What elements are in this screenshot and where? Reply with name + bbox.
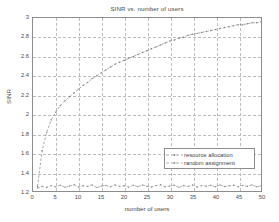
series-point [146, 50, 147, 51]
x-axis-label: number of users [32, 205, 262, 212]
series-point [174, 184, 175, 185]
series-point [164, 186, 165, 187]
series-point [55, 111, 56, 112]
series-point [37, 187, 38, 188]
y-tick-label: 1.4 [3, 170, 29, 176]
x-tick-label: 15 [89, 194, 113, 200]
series-point [142, 184, 143, 185]
series-point [105, 69, 106, 70]
series-point [224, 186, 225, 187]
series-point [105, 185, 106, 186]
series-point [178, 187, 179, 188]
series-point [151, 186, 152, 187]
y-tick-label: 1.6 [3, 150, 29, 156]
legend-marker-icon [165, 159, 184, 167]
series-point [37, 185, 38, 186]
series-point [151, 48, 152, 49]
series-point [219, 28, 220, 29]
series-point [192, 34, 193, 35]
series-point [73, 92, 74, 93]
x-tick-label: 35 [181, 194, 205, 200]
series-point [119, 61, 120, 62]
series-point [82, 85, 83, 86]
x-tick-label: 0 [20, 194, 44, 200]
y-tick-label: 2.6 [3, 53, 29, 59]
series-point [60, 105, 61, 106]
series-point [215, 186, 216, 187]
series-point [215, 29, 216, 30]
series-point [256, 186, 257, 187]
series-point [69, 96, 70, 97]
series-point [169, 185, 170, 186]
series-point [128, 186, 129, 187]
series-point [228, 185, 229, 186]
series-point [247, 186, 248, 187]
series-point [114, 63, 115, 64]
x-tick-label: 20 [112, 194, 136, 200]
series-point [242, 185, 243, 186]
series-point [128, 58, 129, 59]
series-line-1 [38, 185, 261, 188]
series-point [160, 184, 161, 185]
series-point [64, 100, 65, 101]
series-point [78, 186, 79, 187]
series-point [155, 46, 156, 47]
series-point [233, 25, 234, 26]
series-point [114, 184, 115, 185]
series-point [96, 187, 97, 188]
x-tick-label: 25 [135, 194, 159, 200]
series-point [142, 52, 143, 53]
series-point [64, 187, 65, 188]
series-point [260, 185, 261, 186]
series-point [256, 22, 257, 23]
series-point [160, 44, 161, 45]
series-point [60, 184, 61, 185]
y-tick-label: 3 [3, 14, 29, 20]
series-point [137, 54, 138, 55]
series-point [237, 186, 238, 187]
series-point [169, 40, 170, 41]
series-point [46, 187, 47, 188]
legend-item-resource-allocation[interactable]: resource allocation [165, 151, 254, 159]
series-point [92, 184, 93, 185]
series-point [101, 185, 102, 186]
x-tick-label: 40 [204, 194, 228, 200]
series-point [50, 119, 51, 120]
legend-item-random-assignment[interactable]: random assignment [165, 159, 254, 167]
series-point [87, 82, 88, 83]
series-point [260, 21, 261, 22]
y-tick-label: 1.8 [3, 131, 29, 137]
series-point [123, 185, 124, 186]
chart-title: SINR vs. number of users [32, 5, 262, 12]
series-point [196, 33, 197, 34]
series-point [133, 185, 134, 186]
series-point [92, 78, 93, 79]
series-point [101, 72, 102, 73]
chart-figure: SINR vs. number of users 1.21.41.61.822.… [0, 0, 279, 222]
series-point [206, 185, 207, 186]
legend-label: resource allocation [184, 151, 233, 159]
series-point [196, 186, 197, 187]
x-axis-ticks: 05101520253035404550 [32, 194, 262, 204]
chart-legend[interactable]: resource allocation random assignment [164, 148, 255, 169]
series-point [228, 26, 229, 27]
series-point [82, 185, 83, 186]
series-point [137, 186, 138, 187]
series-point [210, 30, 211, 31]
series-point [201, 185, 202, 186]
series-point [110, 186, 111, 187]
series-point [41, 186, 42, 187]
series-point [237, 24, 238, 25]
series-point [133, 56, 134, 57]
series-point [46, 132, 47, 133]
series-point [164, 42, 165, 43]
series-point [192, 184, 193, 185]
x-tick-label: 50 [250, 194, 274, 200]
series-point [87, 186, 88, 187]
series-point [110, 66, 111, 67]
series-point [96, 75, 97, 76]
series-point [50, 185, 51, 186]
series-point [210, 185, 211, 186]
series-point [251, 22, 252, 23]
y-axis-label: SINR [5, 75, 12, 119]
